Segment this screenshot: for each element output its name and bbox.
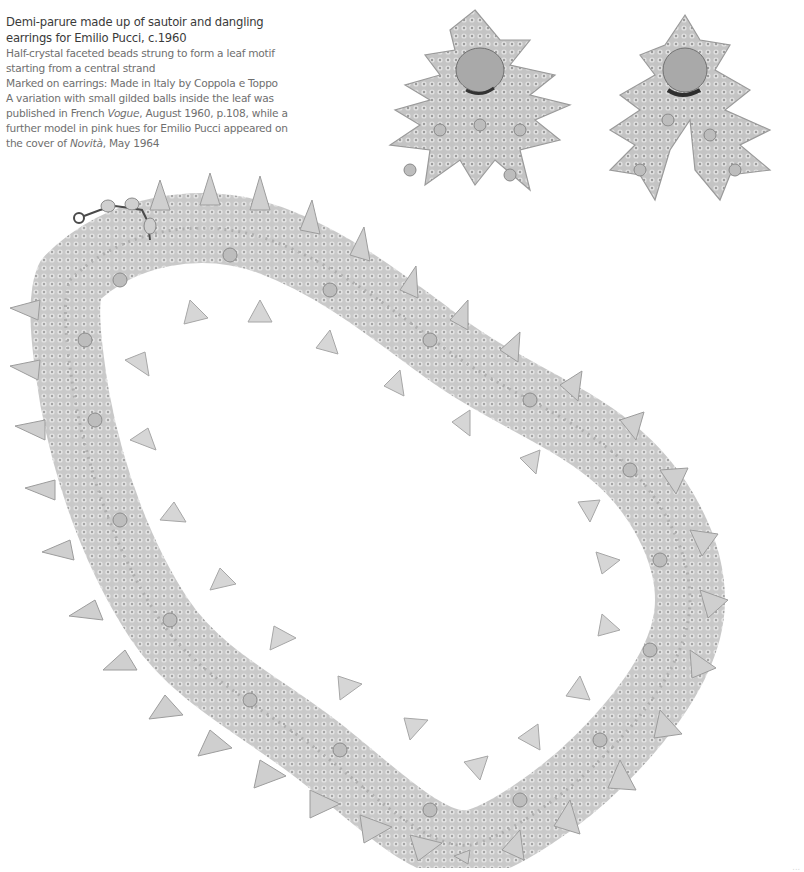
caption-note-text: , May 1964 [103, 137, 159, 149]
caption-note: A variation with small gilded balls insi… [6, 91, 296, 151]
earring-right [610, 15, 770, 200]
necklace [10, 173, 728, 864]
caption-note-vogue: Vogue [108, 107, 140, 119]
page-folio: ... [792, 863, 800, 872]
caption-description: Half-crystal faceted beads strung to for… [6, 46, 296, 76]
caption-title: Demi-parure made up of sautoir and dangl… [6, 14, 296, 46]
caption-marking: Marked on earrings: Made in Italy by Cop… [6, 76, 296, 91]
caption-note-novita: Novità [70, 137, 103, 149]
earring-left [390, 10, 570, 190]
caption-block: Demi-parure made up of sautoir and dangl… [6, 14, 296, 151]
